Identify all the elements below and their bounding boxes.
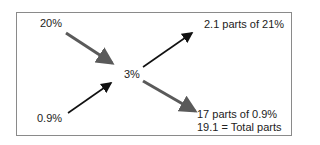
total-parts-label: 19.1 = Total parts xyxy=(197,121,282,134)
arrow-20pct-to-center xyxy=(66,33,112,63)
output-label-2-1-parts: 2.1 parts of 21% xyxy=(204,18,284,31)
input-label-0-9pct: 0.9% xyxy=(37,112,62,125)
output-label-17-parts: 17 parts of 0.9% xyxy=(197,108,277,121)
arrow-0-9pct-to-center xyxy=(68,83,111,113)
center-label-3pct: 3% xyxy=(124,68,140,81)
input-label-20pct: 20% xyxy=(40,17,62,30)
arrow-center-to-2-1-parts xyxy=(143,33,192,67)
arrow-center-to-17-parts xyxy=(143,81,195,111)
